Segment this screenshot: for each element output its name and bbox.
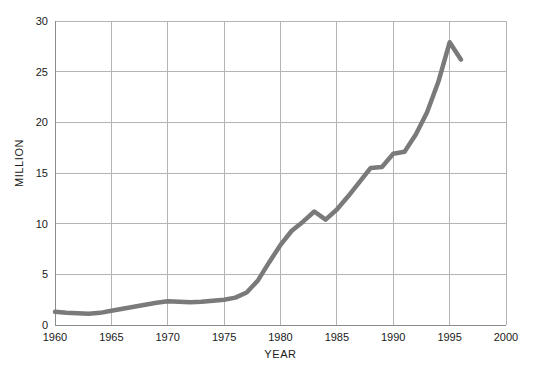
svg-text:0: 0 [42, 319, 48, 331]
svg-text:20: 20 [36, 116, 48, 128]
svg-text:10: 10 [36, 218, 48, 230]
svg-text:30: 30 [36, 15, 48, 27]
svg-text:1960: 1960 [43, 331, 67, 343]
svg-text:25: 25 [36, 66, 48, 78]
x-axis-tick-labels: 196019651970197519801985199019952000 [43, 331, 518, 343]
svg-text:1990: 1990 [381, 331, 405, 343]
svg-text:1965: 1965 [99, 331, 123, 343]
svg-text:5: 5 [42, 268, 48, 280]
svg-text:1995: 1995 [437, 331, 461, 343]
svg-text:1975: 1975 [212, 331, 236, 343]
svg-text:1970: 1970 [156, 331, 180, 343]
line-chart-plot: 051015202530 196019651970197519801985199… [0, 0, 534, 377]
svg-text:1980: 1980 [268, 331, 292, 343]
chart-container: MILLION 051015202530 1960196519701975198… [0, 0, 534, 377]
y-axis-tick-labels: 051015202530 [36, 15, 48, 331]
x-axis-title: YEAR [55, 348, 506, 360]
svg-text:2000: 2000 [494, 331, 518, 343]
svg-text:15: 15 [36, 167, 48, 179]
data-series-line [55, 42, 461, 314]
svg-text:1985: 1985 [325, 331, 349, 343]
